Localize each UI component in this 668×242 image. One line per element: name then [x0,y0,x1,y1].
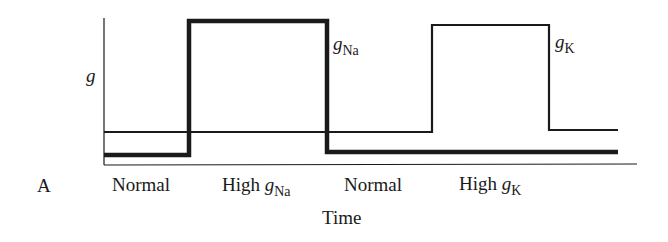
x-axis-label: Time [322,208,361,227]
phase-high-gna-var: g [265,174,275,195]
x-axis [104,164,637,165]
phase-high-gk-var: g [502,173,512,194]
panel-label: A [37,176,51,195]
phase-high-gk-sub: K [511,183,521,198]
gna-label-base: g [333,33,343,54]
y-axis-label: g [86,66,96,85]
gk-trace-label: gK [555,32,575,51]
gk-label-sub: K [565,41,575,56]
gna-label-sub: Na [343,43,359,58]
phase-high-gna-text: High [222,174,265,195]
phase-label-high-gk: High gK [459,174,521,193]
phase-label-normal-2: Normal [344,175,402,194]
gk-trace [104,25,618,132]
phase-label-high-gna: High gNa [222,175,291,194]
phase-label-normal-1: Normal [112,175,170,194]
gna-trace [104,21,618,155]
phase-high-gna-sub: Na [274,184,290,199]
gk-label-base: g [555,31,565,52]
gna-trace-label: gNa [333,34,359,53]
phase-high-gk-text: High [459,173,502,194]
